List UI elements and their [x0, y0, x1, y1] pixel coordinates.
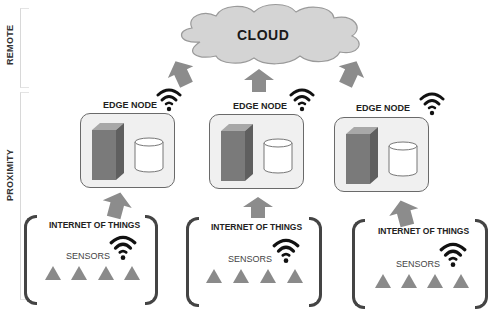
sensor-icon [375, 274, 391, 288]
server-icon [344, 126, 380, 186]
iot-title: INTERNET OF THINGS [378, 226, 469, 236]
sensor-icon [233, 269, 249, 283]
iot-bracket-left [186, 217, 199, 307]
sensor-icon [98, 266, 114, 280]
database-icon [262, 137, 294, 175]
arrow-up-icon [242, 68, 276, 92]
iot-bracket-left [352, 219, 365, 309]
iot-title: INTERNET OF THINGS [49, 220, 140, 230]
arrow-up-icon [241, 196, 275, 218]
iot-title: INTERNET OF THINGS [211, 222, 302, 232]
server-icon [219, 123, 255, 183]
wifi-icon [108, 233, 138, 261]
arrow-up-icon [163, 58, 199, 88]
sensor-icon [206, 269, 222, 283]
sensor-icon [260, 269, 276, 283]
edge-node-box [80, 113, 175, 188]
sensor-icon [401, 274, 417, 288]
sensors-label: SENSORS [66, 251, 110, 261]
edge-node-title: EDGE NODE [103, 100, 157, 110]
wifi-icon [438, 240, 468, 268]
sensor-icon [71, 266, 87, 280]
server-icon [90, 122, 126, 182]
sensor-icon [45, 266, 61, 280]
database-icon [387, 140, 419, 178]
cloud-label: CLOUD [237, 27, 289, 43]
edge-node-box [334, 117, 429, 192]
wifi-icon [271, 236, 301, 264]
wifi-icon [288, 86, 316, 112]
arrow-up-icon [333, 58, 369, 88]
wifi-icon [155, 86, 183, 112]
iot-bracket-right [309, 217, 322, 307]
edge-node-box [209, 114, 304, 189]
edge-node-title: EDGE NODE [233, 101, 287, 111]
arrow-up-icon [98, 190, 136, 220]
arrow-up-icon [385, 198, 423, 228]
remote-zone-bracket [20, 8, 29, 88]
sensor-icon [124, 266, 140, 280]
iot-bracket-right [145, 215, 158, 305]
sensor-icon [453, 274, 469, 288]
proximity-zone-label: PROXIMITY [5, 147, 15, 203]
sensor-icon [427, 274, 443, 288]
iot-bracket-left [24, 215, 37, 305]
remote-zone-label: REMOTE [5, 25, 15, 65]
database-icon [133, 136, 165, 174]
edge-node-title: EDGE NODE [356, 103, 410, 113]
wifi-icon [418, 90, 446, 116]
sensor-icon [287, 269, 303, 283]
sensors-label: SENSORS [228, 254, 272, 264]
sensors-label: SENSORS [396, 259, 440, 269]
iot-bracket-right [475, 219, 488, 309]
